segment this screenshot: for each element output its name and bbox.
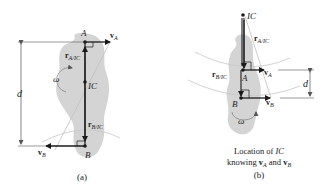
point-A-a xyxy=(83,40,87,44)
caption-b-line1: Location of IC xyxy=(234,146,284,156)
point-A-b xyxy=(241,68,245,72)
label-A-b: A xyxy=(241,73,248,83)
diagram-canvas: d A IC B ω vA vB rA/IC rB/IC (a) xyxy=(0,0,329,192)
label-IC-a: IC xyxy=(87,81,98,91)
label-rB-IC-b: rB/IC xyxy=(212,70,228,80)
label-B-b: B xyxy=(232,99,238,109)
point-IC-a xyxy=(83,80,87,84)
label-omega-b: ω xyxy=(238,116,244,126)
caption-b-line2: knowing vA and vB xyxy=(227,157,292,168)
point-B-a xyxy=(83,144,87,148)
label-rA-IC-b: rA/IC xyxy=(254,34,270,44)
label-omega-a: ω xyxy=(53,74,59,84)
label-vA-b: vA xyxy=(264,68,272,78)
label-d-b: d xyxy=(303,78,309,89)
caption-a: (a) xyxy=(77,172,87,182)
figure-a: d A IC B ω vA vB rA/IC rB/IC (a) xyxy=(17,28,120,182)
label-B-a: B xyxy=(85,150,91,160)
caption-b: (b) xyxy=(254,170,265,180)
label-vA-a: vA xyxy=(110,31,118,41)
label-IC-b: IC xyxy=(246,11,257,21)
label-vB-a: vB xyxy=(38,148,46,158)
label-A-a: A xyxy=(80,28,87,38)
point-IC-b xyxy=(241,13,245,17)
label-vB-b: vB xyxy=(266,98,274,108)
label-d-a: d xyxy=(17,88,23,99)
figure-b: d IC A B ω rA/IC rB/IC vA vB Location of… xyxy=(188,11,314,180)
point-B-b xyxy=(239,96,243,100)
